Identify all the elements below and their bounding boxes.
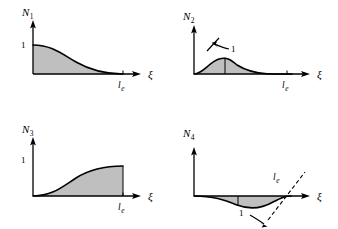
x-tick-label-le-n3: le bbox=[118, 202, 125, 215]
panel-n2: N2 1 le ξ bbox=[169, 0, 338, 114]
y-tick-label-one-n3: 1 bbox=[21, 155, 26, 165]
x-tick-label-le-n4: le bbox=[273, 172, 280, 185]
panel-n3: N3 1 le ξ bbox=[0, 115, 169, 229]
axis-label-xi-n1: ξ bbox=[148, 68, 153, 81]
axis-label-n4: N4 bbox=[182, 127, 195, 142]
slope-marker-segment-n2 bbox=[207, 38, 219, 51]
axis-label-n3: N3 bbox=[21, 123, 34, 138]
slope-label-one-n4: 1 bbox=[239, 208, 244, 218]
x-tick-label-le-n1: le bbox=[118, 80, 125, 93]
panel-n1: N1 1 le ξ bbox=[0, 0, 169, 114]
axis-label-xi-n4: ξ bbox=[317, 190, 322, 203]
slope-pointer-n4 bbox=[250, 215, 264, 224]
slope-label-one-n2: 1 bbox=[231, 44, 236, 54]
y-tick-label-one-n1: 1 bbox=[21, 40, 26, 50]
axis-label-n1: N1 bbox=[21, 6, 34, 21]
axis-label-n2: N2 bbox=[182, 10, 195, 25]
slope-pointer-n2 bbox=[215, 44, 230, 49]
x-tick-label-le-n2: le bbox=[282, 80, 289, 93]
axis-label-xi-n2: ξ bbox=[317, 68, 322, 81]
panel-n4: N4 le 1 ξ bbox=[169, 115, 338, 229]
axis-label-xi-n3: ξ bbox=[148, 190, 153, 203]
curve-fill-n3 bbox=[33, 166, 123, 196]
shape-functions-figure: N1 1 le ξ bbox=[0, 0, 338, 229]
curve-fill-n1 bbox=[33, 45, 123, 74]
